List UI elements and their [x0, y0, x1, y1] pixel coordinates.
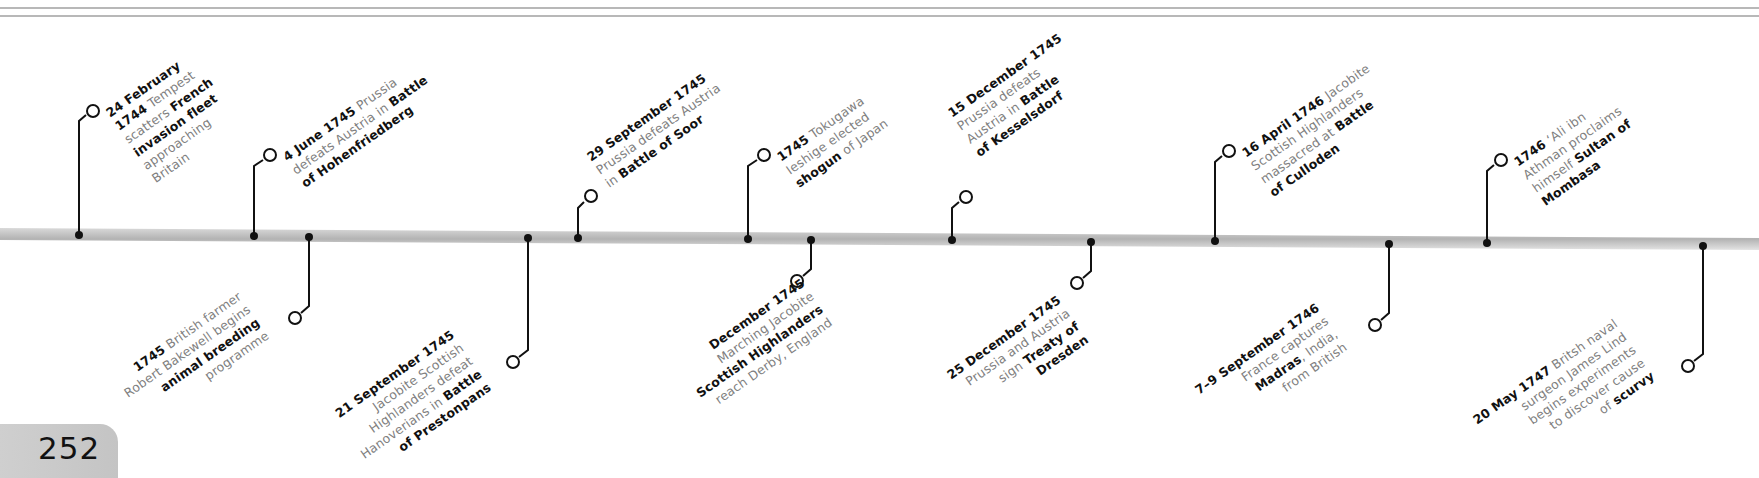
timeline-bar: [0, 228, 1759, 250]
page-number: 252: [38, 430, 100, 466]
